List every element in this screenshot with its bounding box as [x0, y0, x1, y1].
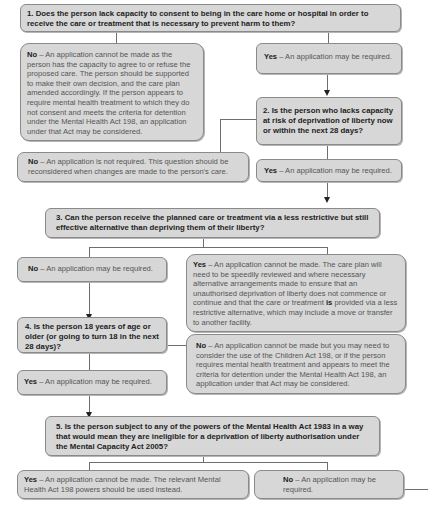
- connector: [220, 119, 221, 152]
- connector: [89, 247, 90, 257]
- question-2-yes-box: Yes – An application may be required.: [256, 159, 402, 182]
- answer-text: – An application cannot be made but you …: [196, 341, 390, 388]
- connector: [404, 489, 428, 490]
- connector: [89, 462, 327, 463]
- connector: [89, 281, 90, 316]
- question-4-no-box: No – An application cannot be made but y…: [186, 334, 406, 394]
- no-label: No: [196, 341, 206, 350]
- connector: [220, 119, 256, 120]
- question-3-no-box: No – An application may be required.: [17, 257, 167, 282]
- question-4-box: 4. Is the person 18 years of age or olde…: [17, 317, 167, 353]
- answer-text: – An application cannot be made. The rel…: [24, 475, 221, 494]
- connector: [203, 455, 204, 462]
- connector: [89, 247, 328, 248]
- connector: [166, 345, 186, 346]
- yes-label: Yes: [193, 260, 206, 269]
- question-5-yes-box: Yes – An application cannot be made. The…: [17, 470, 249, 499]
- arrow-down-icon: [324, 90, 330, 96]
- connector: [116, 31, 117, 43]
- question-1-box: 1. Does the person lack capacity to cons…: [20, 4, 401, 32]
- connector: [327, 145, 328, 159]
- question-4-yes-box: Yes – An application may be required.: [17, 370, 167, 395]
- question-1-text: 1. Does the person lack capacity to cons…: [27, 9, 368, 28]
- answer-text: – An application may be required.: [277, 166, 392, 175]
- question-3-box: 3. Can the person receive the planned ca…: [45, 208, 380, 238]
- connector: [89, 352, 90, 370]
- no-label: No: [28, 157, 38, 166]
- no-label: No: [283, 475, 293, 484]
- question-4-text: 4. Is the person 18 years of age or olde…: [25, 322, 159, 351]
- question-3-yes-box: Yes – An application cannot be made. The…: [186, 254, 406, 332]
- answer-text: – An application cannot be made as the p…: [27, 50, 190, 136]
- connector: [328, 31, 329, 43]
- connector: [89, 462, 90, 470]
- answer-text: – An application may be required.: [283, 475, 376, 494]
- no-label: No: [28, 264, 38, 273]
- yes-label: Yes: [264, 52, 277, 61]
- arrow-down-icon: [324, 197, 330, 203]
- yes-label: Yes: [24, 475, 37, 484]
- question-5-text: 5. Is the person subject to any of the p…: [56, 422, 363, 451]
- answer-text: – An application may be required.: [277, 52, 392, 61]
- question-2-text: 2. Is the person who lacks capacity at r…: [263, 106, 393, 135]
- question-3-text: 3. Can the person receive the planned ca…: [56, 213, 368, 232]
- answer-text: – An application may be required.: [38, 264, 153, 273]
- answer-text: – An application may be required.: [37, 377, 152, 386]
- question-5-no-box: No – An application may be required.: [254, 470, 404, 499]
- connector: [203, 237, 204, 247]
- yes-label: Yes: [24, 377, 37, 386]
- question-1-yes-box: Yes – An application may be required.: [256, 43, 402, 74]
- question-2-no-box: No – An application is not required. Thi…: [17, 152, 249, 182]
- question-1-no-box: No – An application cannot be made as th…: [20, 43, 204, 141]
- question-5-box: 5. Is the person subject to any of the p…: [45, 416, 380, 456]
- question-2-box: 2. Is the person who lacks capacity at r…: [256, 97, 402, 145]
- connector: [327, 462, 328, 470]
- answer-text: – An application is not required. This q…: [28, 157, 228, 176]
- connector: [89, 394, 90, 414]
- no-label: No: [27, 50, 37, 59]
- yes-label: Yes: [264, 166, 277, 175]
